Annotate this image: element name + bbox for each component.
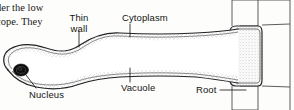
label-cytoplasm: Cytoplasm [122,13,168,24]
label-vacuole: Vacuole [121,83,155,94]
label-thin-wall-line-1: Thin [70,12,89,23]
label-thin-wall: Thinwall [62,13,96,34]
label-thin-wall-line-2: wall [71,23,88,34]
label-root: Root [196,85,216,96]
body-text-line-1: der the low [0,1,43,15]
nucleus-blob [14,64,29,76]
body-text-line-2: cope. They [0,15,42,29]
root-hair-tube [4,29,238,89]
label-nucleus: Nucleus [29,90,64,101]
figure-canvas: der the low cope. They Thinwall Cytoplas… [0,0,294,110]
